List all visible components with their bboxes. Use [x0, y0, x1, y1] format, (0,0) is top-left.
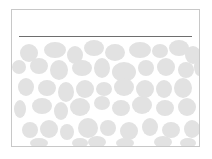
pebble-shape [100, 120, 116, 136]
pebble-shape [112, 100, 130, 116]
pebble-shape [178, 62, 194, 78]
pebble-shape [156, 80, 172, 98]
pebble-shape [184, 120, 200, 138]
pebble-shape [84, 40, 104, 56]
slide-thumbnail[interactable] [11, 9, 200, 147]
pebble-shape [178, 98, 196, 116]
pebble-shape [72, 60, 92, 76]
pebble-shape [157, 58, 175, 76]
pebble-shape [94, 96, 110, 110]
pebble-shape [94, 58, 110, 78]
pebble-shape [116, 138, 134, 147]
pebble-shape [30, 138, 48, 147]
pebble-shape [50, 60, 68, 80]
pebble-shape [96, 82, 112, 96]
pebble-shape [88, 136, 106, 147]
pebble-shape [54, 102, 68, 120]
pebble-shape [30, 58, 48, 74]
title-divider [19, 36, 192, 37]
pebble-shape [180, 138, 196, 147]
pebble-shape [58, 82, 74, 102]
pebble-shape [194, 58, 200, 76]
pebble-shape [152, 44, 168, 58]
pebble-shape [132, 96, 152, 114]
slide-title-placeholder[interactable] [19, 12, 193, 36]
pebble-shape [18, 78, 34, 96]
pebble-shape [12, 60, 26, 74]
pebble-shape [40, 120, 58, 138]
pebble-shape [38, 80, 56, 96]
pebble-shape [174, 78, 192, 98]
pebble-shape [14, 100, 26, 118]
pebble-pattern-background [12, 38, 200, 147]
pebble-shape [154, 136, 172, 147]
pebble-shape [78, 118, 98, 138]
pebble-shape [114, 78, 134, 96]
pebble-shape [142, 118, 158, 136]
pebble-shape [32, 98, 52, 114]
pebble-shape [138, 60, 154, 76]
pebble-shape [72, 138, 88, 147]
pebble-shape [156, 100, 174, 116]
pebble-shape [22, 122, 38, 138]
pebble-shape [76, 80, 94, 98]
pebble-shape [129, 42, 151, 58]
pebble-shape [70, 98, 90, 116]
pebble-shape [60, 124, 74, 140]
pebble-shape [105, 44, 125, 61]
pebble-shape [44, 42, 66, 58]
